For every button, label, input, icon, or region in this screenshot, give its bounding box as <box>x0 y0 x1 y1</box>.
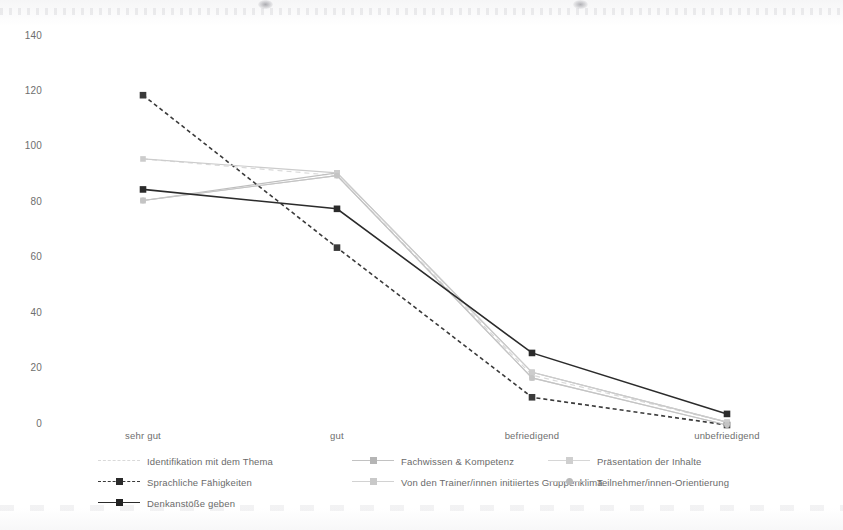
data-point-marker <box>529 350 536 357</box>
legend-label-fachwissen: Fachwissen & Kompetenz <box>401 456 514 467</box>
legend-key-identifikation <box>98 455 140 467</box>
series-5 <box>140 173 730 428</box>
data-point-marker <box>140 198 146 204</box>
legend-key-teilnehmer <box>548 476 590 488</box>
data-point-marker <box>529 370 535 376</box>
series-line <box>143 176 727 425</box>
chart-legend: Identifikation mit dem Thema Fachwissen … <box>62 455 822 517</box>
series-4 <box>140 156 730 425</box>
data-point-marker <box>140 186 147 193</box>
legend-item-fachwissen[interactable]: Fachwissen & Kompetenz <box>352 455 514 467</box>
legend-label-teilnehmer: Teilnehmer/innen-Orientierung <box>597 477 729 488</box>
legend-key-sprachliche <box>98 476 140 488</box>
legend-label-sprachliche: Sprachliche Fähigkeiten <box>147 477 252 488</box>
series-6 <box>140 186 731 417</box>
legend-key-gruppenklima <box>352 476 394 488</box>
legend-item-denkanstoesse[interactable]: Denkanstöße geben <box>98 497 235 509</box>
data-point-marker <box>334 206 341 213</box>
series-line <box>143 173 727 422</box>
legend-label-praesentation: Präsentation der Inhalte <box>597 456 701 467</box>
legend-label-identifikation: Identifikation mit dem Thema <box>147 456 273 467</box>
series-2 <box>140 173 730 428</box>
legend-key-denkanstoesse <box>98 497 140 509</box>
data-point-marker <box>140 156 146 162</box>
data-point-marker <box>724 411 731 418</box>
legend-key-praesentation <box>548 455 590 467</box>
legend-item-praesentation[interactable]: Präsentation der Inhalte <box>548 455 701 467</box>
legend-item-sprachliche[interactable]: Sprachliche Fähigkeiten <box>98 476 252 488</box>
plot-area <box>0 0 843 530</box>
data-point-marker <box>334 244 341 251</box>
legend-key-fachwissen <box>352 455 394 467</box>
series-line <box>143 189 727 414</box>
line-chart: 140 120 100 80 60 40 20 0 sehr gut gut b… <box>0 0 843 530</box>
data-point-marker <box>529 394 536 401</box>
legend-label-denkanstoesse: Denkanstöße geben <box>147 498 235 509</box>
series-line <box>143 176 727 425</box>
data-point-marker <box>334 173 340 179</box>
series-line <box>143 95 727 425</box>
series-3 <box>140 92 731 428</box>
legend-item-teilnehmer[interactable]: Teilnehmer/innen-Orientierung <box>548 476 729 488</box>
data-point-marker <box>140 92 147 99</box>
data-point-marker <box>529 375 535 381</box>
legend-item-identifikation[interactable]: Identifikation mit dem Thema <box>98 455 273 467</box>
data-point-marker <box>724 422 730 428</box>
